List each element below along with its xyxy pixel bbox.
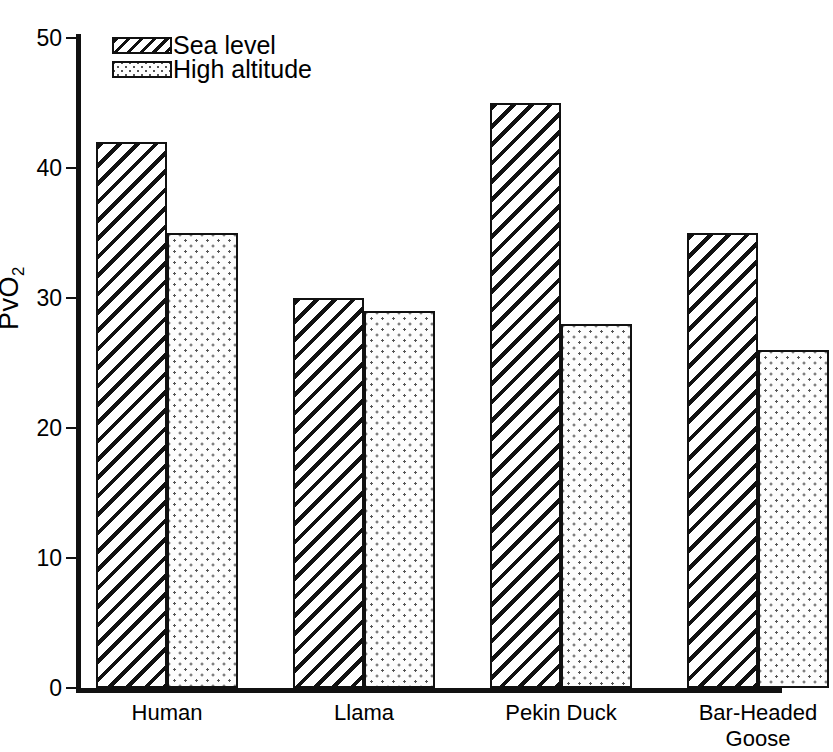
legend-label-high-altitude: High altitude bbox=[172, 57, 312, 82]
y-axis-tick-label-text: 50 bbox=[36, 25, 62, 51]
bar-high-altitude bbox=[167, 233, 238, 688]
y-axis-tick bbox=[66, 37, 77, 39]
legend-label-sea-level: Sea level bbox=[172, 33, 276, 58]
bar-sea-level bbox=[490, 103, 561, 688]
y-axis-tick-label-text: 0 bbox=[49, 675, 62, 701]
y-axis-tick-label-text: 20 bbox=[36, 415, 62, 441]
legend-item-sea-level: Sea level bbox=[112, 33, 312, 57]
chart-legend: Sea level High altitude bbox=[112, 33, 312, 81]
bar-sea-level bbox=[687, 233, 758, 688]
bar-sea-level bbox=[96, 142, 167, 688]
y-axis-tick-label: 10 bbox=[0, 545, 62, 572]
legend-swatch-hatch-icon bbox=[112, 37, 172, 54]
legend-item-high-altitude: High altitude bbox=[112, 57, 312, 81]
y-axis-title-p: P bbox=[0, 311, 24, 330]
y-axis-tick-label: 20 bbox=[0, 415, 62, 442]
x-axis-line bbox=[76, 688, 782, 693]
bar-sea-level bbox=[293, 298, 364, 688]
y-axis-tick bbox=[66, 167, 77, 169]
x-axis-category-label: Bar-Headed Goose bbox=[648, 700, 833, 752]
bar-high-altitude bbox=[561, 324, 632, 688]
y-axis-title-p-bar: P bbox=[0, 311, 25, 330]
y-axis-tick-label-text: 40 bbox=[36, 155, 62, 181]
y-axis-tick-label: 40 bbox=[0, 155, 62, 182]
y-axis-tick bbox=[66, 557, 77, 559]
y-axis-tick-label: 30 bbox=[0, 285, 62, 312]
x-axis-category-label: Llama bbox=[254, 700, 474, 726]
y-axis-tick-label: 50 bbox=[0, 25, 62, 52]
y-axis-tick bbox=[66, 297, 77, 299]
x-axis-category-label: Human bbox=[57, 700, 277, 726]
bar-high-altitude bbox=[364, 311, 435, 688]
legend-swatch-dots-icon bbox=[112, 61, 172, 78]
y-axis-tick-label-text: 30 bbox=[36, 285, 62, 311]
y-axis-tick bbox=[66, 427, 77, 429]
x-axis-category-label: Pekin Duck bbox=[451, 700, 671, 726]
bar-high-altitude bbox=[758, 350, 829, 688]
y-axis-title-subscript: 2 bbox=[9, 266, 28, 276]
y-axis-tick bbox=[66, 687, 77, 689]
plot-area bbox=[78, 38, 800, 688]
y-axis-tick-label-text: 10 bbox=[36, 545, 62, 571]
y-axis-tick-label: 0 bbox=[0, 675, 62, 702]
